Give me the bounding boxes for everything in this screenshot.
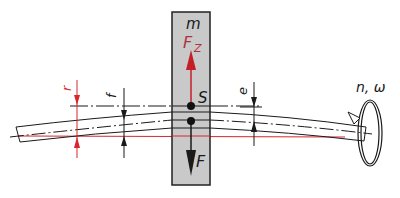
rotation-arrow-icon — [358, 100, 382, 166]
deflection-label: f — [104, 91, 119, 98]
mass-label: m — [186, 15, 201, 33]
centrifugal-force-subscript: Z — [193, 42, 202, 55]
rotation-label: n, ω — [356, 79, 386, 95]
center-of-gravity-label: S — [198, 89, 208, 107]
shaft-right — [210, 106, 372, 141]
shaft-diagram: m F Z S F r f e n, ω — [0, 0, 400, 198]
shaft-center-dot — [187, 117, 195, 125]
radius-label: r — [59, 84, 74, 91]
centrifugal-force-label: F — [183, 33, 193, 52]
eccentricity-label: e — [235, 87, 250, 95]
weight-force-label: F — [196, 152, 206, 171]
center-of-gravity-dot — [187, 102, 195, 110]
diagram-canvas: m F Z S F r f e n, ω — [0, 0, 400, 198]
